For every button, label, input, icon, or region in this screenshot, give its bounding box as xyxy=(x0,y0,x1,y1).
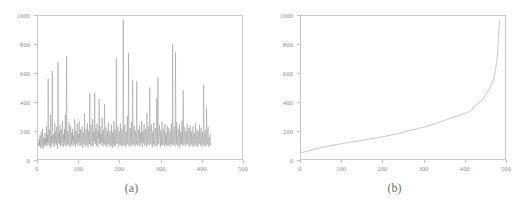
y-tick-label: 0 xyxy=(0,157,30,164)
y-tick-label: 800 xyxy=(0,41,30,48)
y-tick-mark xyxy=(34,15,37,16)
x-tick-label: 300 xyxy=(419,165,429,172)
figure-container: 02004006008001000 0100200300400500 (a) 0… xyxy=(0,0,526,210)
y-tick-mark xyxy=(34,73,37,74)
x-tick-label: 200 xyxy=(377,165,387,172)
x-tick-label: 300 xyxy=(156,165,166,172)
plot-svg-b xyxy=(301,16,505,159)
plot-area-b xyxy=(300,15,506,160)
y-tick-label: 600 xyxy=(263,70,293,77)
y-tick-label: 600 xyxy=(0,70,30,77)
y-tick-label: 200 xyxy=(0,128,30,135)
y-tick-label: 200 xyxy=(263,128,293,135)
x-tick-mark xyxy=(382,160,383,163)
y-tick-mark xyxy=(297,73,300,74)
x-tick-mark xyxy=(465,160,466,163)
y-tick-label: 0 xyxy=(263,157,293,164)
y-tick-label: 1000 xyxy=(263,12,293,19)
x-tick-mark xyxy=(300,160,301,163)
x-tick-mark xyxy=(243,160,244,163)
y-tick-mark xyxy=(34,44,37,45)
panel-caption-a: (a) xyxy=(0,181,263,196)
x-tick-label: 500 xyxy=(501,165,511,172)
y-tick-mark xyxy=(297,131,300,132)
x-tick-mark xyxy=(37,160,38,163)
y-tick-mark xyxy=(297,44,300,45)
y-tick-label: 400 xyxy=(263,99,293,106)
data-series-raw xyxy=(38,20,210,149)
y-tick-label: 400 xyxy=(0,99,30,106)
x-tick-label: 0 xyxy=(35,165,38,172)
x-tick-label: 0 xyxy=(298,165,301,172)
x-tick-label: 100 xyxy=(73,165,83,172)
x-tick-mark xyxy=(341,160,342,163)
plot-area-a xyxy=(37,15,243,160)
x-tick-label: 200 xyxy=(114,165,124,172)
x-tick-label: 500 xyxy=(238,165,248,172)
x-tick-mark xyxy=(119,160,120,163)
panel-b: 02004006008001000 0100200300400500 (b) xyxy=(263,0,526,210)
x-tick-label: 100 xyxy=(336,165,346,172)
x-tick-mark xyxy=(202,160,203,163)
y-tick-mark xyxy=(297,15,300,16)
data-series-sorted xyxy=(301,20,499,153)
plot-svg-a xyxy=(38,16,242,159)
x-tick-mark xyxy=(161,160,162,163)
x-tick-mark xyxy=(78,160,79,163)
y-tick-label: 1000 xyxy=(0,12,30,19)
x-tick-mark xyxy=(424,160,425,163)
y-tick-mark xyxy=(34,131,37,132)
y-tick-mark xyxy=(297,102,300,103)
panel-caption-b: (b) xyxy=(263,181,526,196)
panel-a: 02004006008001000 0100200300400500 (a) xyxy=(0,0,263,210)
y-tick-mark xyxy=(34,102,37,103)
x-tick-label: 400 xyxy=(460,165,470,172)
x-tick-mark xyxy=(506,160,507,163)
y-tick-label: 800 xyxy=(263,41,293,48)
x-tick-label: 400 xyxy=(197,165,207,172)
